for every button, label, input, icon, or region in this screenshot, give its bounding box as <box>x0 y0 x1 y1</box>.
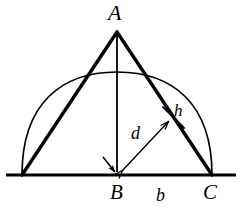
altitude-arrow <box>103 157 115 172</box>
geometry-figure: A B b C d h <box>0 0 241 212</box>
label-point-B: B <box>110 182 123 203</box>
label-point-C: C <box>203 182 217 203</box>
label-distance-d: d <box>131 124 140 142</box>
label-segment-b: b <box>156 186 165 204</box>
distance-arrow-d <box>122 122 168 171</box>
label-apex-A: A <box>108 2 121 24</box>
triangle-left-side <box>22 32 117 175</box>
triangle-right-side <box>117 32 212 175</box>
label-height-h: h <box>174 102 183 119</box>
